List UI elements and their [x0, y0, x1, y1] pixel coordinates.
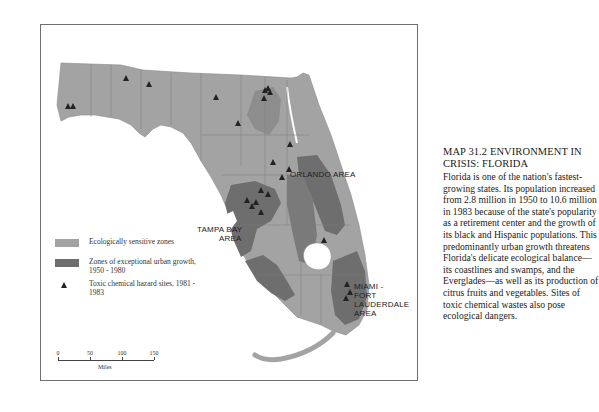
scale-line [58, 360, 154, 361]
scale-tick-label: 150 [150, 350, 159, 356]
lake-okeechobee [303, 243, 331, 270]
map-caption: MAP 31.2 ENVIRONMENT IN CRISIS: FLORIDA … [443, 146, 599, 322]
triangle-icon [61, 282, 67, 288]
miami-label-line4: AREA [354, 309, 377, 318]
miami-label-line3: LAUDERDALE [354, 300, 409, 309]
legend-label: Zones of exceptional urban growth, 1950 … [89, 258, 209, 275]
caption-body: Florida is one of the nation's fastest-g… [443, 171, 599, 322]
map-legend: Ecologically sensitive zones Zones of ex… [55, 238, 255, 300]
tampa-bay-label-line1: TAMPA BAY [197, 225, 242, 234]
florida-keys [255, 333, 333, 360]
scale-tick [122, 357, 123, 360]
scale-bar: 0 50 100 150 Miles [58, 352, 168, 378]
miami-label-line1: MIAMI - [354, 282, 383, 291]
legend-label: Ecologically sensitive zones [89, 238, 209, 247]
florida-map [41, 25, 419, 382]
scale-tick [154, 357, 155, 360]
legend-item-sensitive: Ecologically sensitive zones [55, 238, 255, 258]
dark-gray-swatch-icon [55, 259, 79, 267]
map-frame: ORLANDO AREA TAMPA BAY AREA MIAMI - FORT… [40, 24, 418, 381]
scale-tick-label: 100 [118, 350, 127, 356]
caption-title: MAP 31.2 ENVIRONMENT IN CRISIS: FLORIDA [443, 146, 599, 170]
miami-label-line2: FORT [354, 291, 376, 300]
legend-item-hazard: Toxic chemical hazard sites, 1981 - 1983 [55, 280, 255, 300]
scale-unit-label: Miles [98, 364, 112, 370]
scale-tick [58, 357, 59, 360]
legend-label: Toxic chemical hazard sites, 1981 - 1983 [89, 280, 209, 297]
legend-item-urban: Zones of exceptional urban growth, 1950 … [55, 258, 255, 280]
orlando-area-label: ORLANDO AREA [290, 170, 356, 179]
scale-tick-label: 50 [87, 350, 93, 356]
light-gray-swatch-icon [55, 239, 79, 247]
scale-tick [90, 357, 91, 360]
scale-tick-label: 0 [57, 350, 60, 356]
